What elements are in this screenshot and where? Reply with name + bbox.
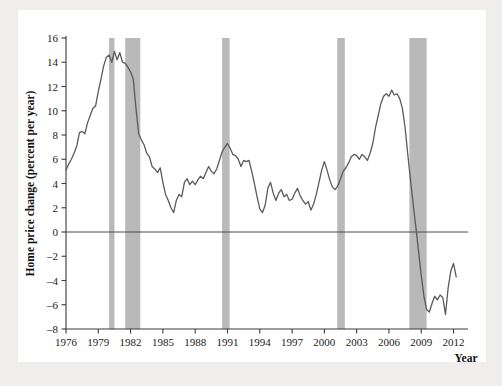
y-tick-label: 6 — [53, 153, 59, 165]
y-axis-title: Home price change (percent per year) — [24, 90, 37, 276]
x-tick-label: 2003 — [346, 336, 369, 348]
y-tick-label: 10 — [47, 105, 59, 117]
y-tick-label: 2 — [53, 202, 59, 214]
y-tick-label: 4 — [53, 178, 59, 190]
x-tick-label: 1997 — [281, 336, 304, 348]
recession-bands-group — [109, 38, 427, 329]
x-tick-label: 2009 — [410, 336, 433, 348]
recession-band — [409, 38, 426, 329]
recession-band — [222, 38, 230, 329]
home-price-change-series — [66, 51, 456, 314]
y-tick-label: 12 — [47, 81, 58, 93]
x-tick-label: 1991 — [216, 336, 238, 348]
y-tick-label: 14 — [47, 56, 59, 68]
x-tick-label: 2012 — [443, 336, 465, 348]
recession-band — [109, 38, 114, 329]
series-line-group — [66, 51, 456, 314]
y-tick-label: –4 — [46, 275, 59, 287]
x-tick-label: 1979 — [87, 336, 110, 348]
x-tick-label: 2000 — [313, 336, 336, 348]
recession-band — [125, 38, 140, 329]
y-tick-label: 8 — [53, 129, 59, 141]
x-tick-label: 1994 — [249, 336, 272, 348]
y-tick-label: –6 — [46, 299, 59, 311]
chart-svg: –8–6–4–202468101214161976197919821985198… — [0, 0, 502, 386]
x-tick-label: 2006 — [378, 336, 401, 348]
figure-container: –8–6–4–202468101214161976197919821985198… — [0, 0, 502, 386]
y-tick-label: –2 — [46, 250, 58, 262]
x-tick-label: 1982 — [120, 336, 142, 348]
x-tick-label: 1985 — [152, 336, 175, 348]
x-tick-label: 1988 — [184, 336, 207, 348]
y-tick-label: 16 — [47, 32, 59, 44]
x-axis-title: Year — [455, 352, 478, 364]
x-tick-label: 1976 — [55, 336, 78, 348]
axes-group — [62, 36, 469, 334]
y-tick-label: 0 — [53, 226, 59, 238]
y-tick-label: –8 — [46, 323, 59, 335]
